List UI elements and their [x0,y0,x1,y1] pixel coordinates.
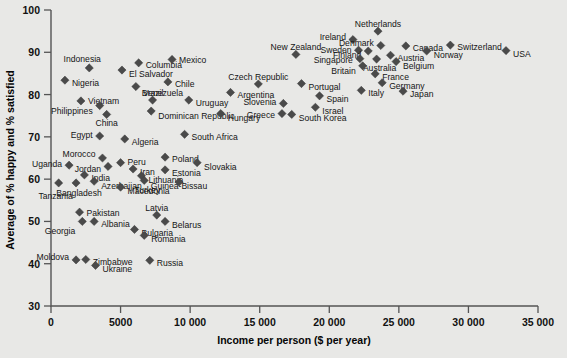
point-label: Georgia [45,226,76,236]
point-label: Czech Republic [228,72,289,82]
point-label: Singapore [314,55,353,65]
point-label: Pakistan [87,208,120,218]
point-label: Slovenia [243,97,276,107]
y-tick-label: 100 [22,4,40,16]
point-label: Uganda [32,159,62,169]
point-label: Japan [410,89,434,99]
point-label: Switzerland [457,42,502,52]
point-label: Peru [128,157,146,167]
chart-canvas: 304050607080901000500010 00015 00020 000… [0,0,567,358]
point-label: Moldova [37,252,70,262]
x-tick-label: 25 000 [383,316,415,328]
point-label: USA [513,49,531,59]
point-label: Egypt [71,130,94,140]
point-label: Uruguay [196,98,229,108]
y-tick-label: 70 [28,131,40,143]
point-label: Portugal [308,82,340,92]
point-label: Macedonia [128,186,170,196]
point-label: El Salvador [129,69,173,79]
point-label: Mexico [179,55,206,65]
point-label: Indonesia [64,54,101,64]
point-label: Vietnam [88,96,119,106]
point-label: Morocco [63,149,96,159]
point-label: Algeria [132,137,159,147]
x-tick-label: 30 000 [452,316,484,328]
point-label: South Africa [192,132,239,142]
point-label: Albania [101,219,130,229]
x-tick-label: 10 000 [174,316,206,328]
point-label: Norway [434,50,464,60]
point-label: Spain [327,94,349,104]
point-label: Romania [151,234,186,244]
point-label: China [95,118,118,128]
point-label: Ukraine [103,264,133,274]
point-label: New Zealand [271,42,322,52]
point-label: Latvia [145,203,168,213]
x-tick-label: 35 000 [522,316,554,328]
point-label: Hungary [228,113,261,123]
point-label: Brazil [142,88,164,98]
x-tick-label: 5000 [109,316,133,328]
point-label: Slovakia [204,162,237,172]
y-tick-label: 50 [28,215,40,227]
y-tick-label: 60 [28,173,40,185]
point-label: Belgium [403,61,434,71]
y-tick-label: 80 [28,89,40,101]
y-axis-title: Average of % happy and % satisfied [4,70,16,249]
x-tick-label: 15 000 [244,316,276,328]
x-axis-title: Income per person ($ per year) [217,334,370,346]
point-label: Tanzania [38,191,73,201]
y-tick-label: 30 [28,300,40,312]
x-tick-label: 20 000 [313,316,345,328]
y-tick-label: 90 [28,46,40,58]
point-label: Nigeria [72,78,99,88]
point-label: Netherlands [355,19,401,29]
point-label: Italy [368,88,384,98]
scatter-chart: 304050607080901000500010 00015 00020 000… [0,0,567,358]
x-tick-label: 0 [48,316,54,328]
point-label: Britain [331,66,356,76]
point-label: South Korea [299,113,347,123]
point-label: Belarus [172,220,201,230]
point-label: Philippines [51,106,93,116]
point-label: Russia [157,258,183,268]
